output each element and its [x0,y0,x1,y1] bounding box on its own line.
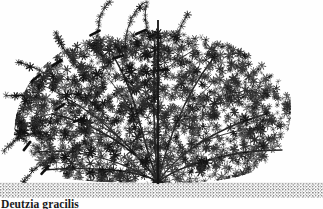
shrub-drawing-canvas [0,0,323,209]
shrub-illustration-figure: Deutzia gracilis [0,0,323,209]
ground-band [0,183,323,198]
